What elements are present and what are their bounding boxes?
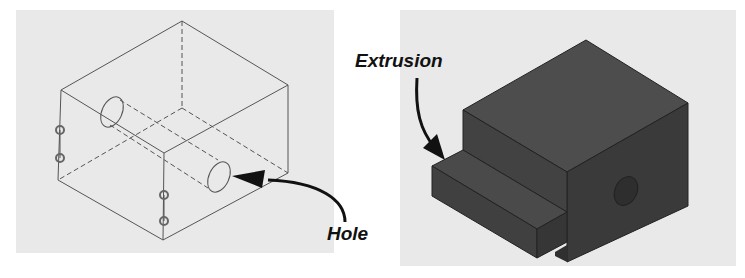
hole-label: Hole (327, 223, 368, 245)
solid-block-drawing (432, 40, 688, 262)
extrusion-label: Extrusion (355, 50, 443, 72)
small-hole-icons (56, 126, 168, 225)
extrusion-arrow-icon (417, 78, 445, 160)
wireframe-drawing (0, 0, 745, 278)
hole-arrow-icon (232, 170, 345, 222)
